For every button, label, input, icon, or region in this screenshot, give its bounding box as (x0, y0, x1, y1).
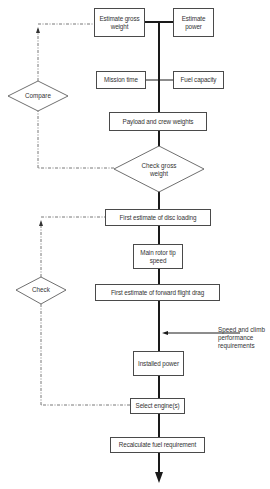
estimate-gross-weight-box: Estimate gross weight (94, 8, 145, 37)
payload-crew-box: Payload and crew weights (109, 112, 207, 131)
node-label: Estimate gross weight (95, 15, 144, 31)
node-label: Recalculate fuel requirement (119, 441, 196, 449)
arrow-up-icon (39, 220, 43, 226)
arrow-down-icon (155, 472, 163, 483)
node-label: Estimate power (174, 15, 213, 31)
fuel-capacity-box: Fuel capacity (173, 71, 224, 89)
node-label: First estimate of disc loading (120, 214, 197, 222)
mission-time-box: Mission time (96, 71, 146, 89)
node-label: Main rotor tip speed (134, 249, 182, 265)
check-gross-weight-label: Check gross weight (136, 161, 182, 178)
node-label: Payload and crew weights (123, 118, 194, 126)
compare-label: Compare (8, 88, 68, 104)
node-label: Mission time (104, 76, 138, 84)
estimate-power-box: Estimate power (173, 8, 214, 37)
arrow-left-icon (162, 331, 168, 335)
node-label: Select engine(s) (136, 402, 180, 410)
installed-power-box: Installed power (133, 351, 184, 376)
recalc-fuel-box: Recalculate fuel requirement (110, 437, 205, 453)
arrow-up-icon (36, 27, 40, 33)
node-label: First estimate of forward flight drag (111, 289, 204, 297)
forward-drag-box: First estimate of forward flight drag (95, 284, 220, 301)
check-label: Check (16, 282, 66, 298)
node-label: Fuel capacity (181, 76, 217, 84)
disc-loading-box: First estimate of disc loading (105, 209, 211, 226)
rotor-tip-speed-box: Main rotor tip speed (133, 244, 183, 269)
select-engines-box: Select engine(s) (130, 398, 185, 414)
speed-climb-input-label: Speed and climb performance requirements (218, 326, 270, 350)
node-label: Installed power (138, 360, 179, 368)
